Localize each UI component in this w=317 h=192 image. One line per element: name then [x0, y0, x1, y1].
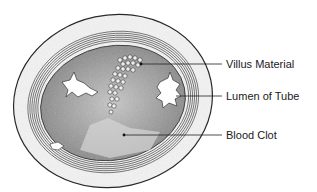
leader-dot-clot: [123, 134, 126, 137]
label-blood-clot: Blood Clot: [226, 129, 277, 141]
label-lumen-of-tube: Lumen of Tube: [226, 90, 299, 102]
label-villus-material: Villus Material: [226, 58, 294, 70]
leader-dot-villus: [140, 63, 143, 66]
